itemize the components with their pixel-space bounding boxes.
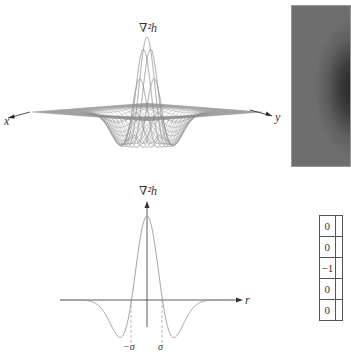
surface-z-label: ∇²h: [139, 22, 157, 34]
y-axis-label: y: [275, 111, 280, 123]
y-arrowhead-icon: [266, 112, 273, 116]
mask-row: 0: [320, 300, 343, 321]
x-axis-label: x: [4, 115, 9, 127]
mask-cell: [335, 279, 342, 300]
log-kernel-image: [291, 5, 351, 167]
mask-row: −1: [320, 258, 343, 279]
mask-cell: [335, 216, 342, 237]
mask-cell: 0: [320, 216, 336, 237]
mask-cell: [335, 237, 342, 258]
pos-sigma-label: σ: [158, 342, 163, 352]
mask-row: 0: [320, 216, 343, 237]
mask-cell: 0: [320, 279, 336, 300]
mask-row: 0: [320, 279, 343, 300]
laplacian-mask-table: 0 0 −1 0 0: [319, 215, 343, 321]
neg-sigma-label: −σ: [123, 342, 135, 352]
mask-cell: [335, 258, 342, 279]
mask-cell: [335, 300, 342, 321]
mask-cell: −1: [320, 258, 336, 279]
value-arrowhead-icon: [145, 201, 150, 208]
r-arrowhead-icon: [236, 298, 243, 303]
profile-x-label: r: [245, 294, 250, 306]
profile-y-label: ∇²h: [139, 185, 157, 197]
mask-cell: 0: [320, 300, 336, 321]
mask-row: 0: [320, 237, 343, 258]
mask-cell: 0: [320, 237, 336, 258]
log-profile-plot: [0, 178, 290, 352]
